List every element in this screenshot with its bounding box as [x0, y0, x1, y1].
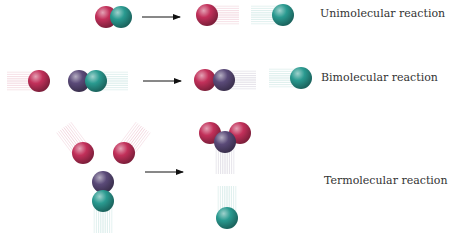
red-atom-sphere [194, 69, 216, 91]
motion-trails [7, 6, 297, 233]
red-atom-sphere [28, 70, 50, 92]
teal-atom-sphere [110, 6, 132, 28]
teal-atom-sphere [272, 4, 294, 26]
red-atom-sphere [113, 142, 135, 164]
purple-atom-sphere [213, 69, 235, 91]
label-termolecular: Termolecular reaction [324, 174, 448, 187]
teal-atom-sphere [92, 190, 114, 212]
teal-atom-sphere [290, 67, 312, 89]
molecule-spheres [28, 4, 312, 229]
teal-atom-sphere [85, 70, 107, 92]
red-atom-sphere [72, 142, 94, 164]
teal-atom-sphere [216, 207, 238, 229]
purple-atom-sphere [214, 131, 236, 153]
label-unimolecular: Unimolecular reaction [320, 7, 445, 20]
purple-atom-sphere [92, 171, 114, 193]
reaction-arrows [142, 17, 183, 172]
reaction-molecularity-diagram [0, 0, 451, 242]
label-bimolecular: Bimolecular reaction [321, 71, 438, 84]
red-atom-sphere [196, 4, 218, 26]
